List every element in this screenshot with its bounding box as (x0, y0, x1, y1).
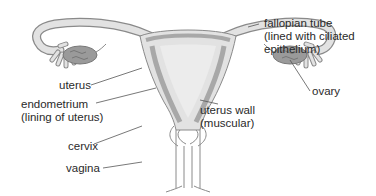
label-ovary: ovary (312, 85, 340, 98)
leader-uterus (91, 68, 142, 85)
leader-endometrium (96, 88, 156, 103)
left-ovary (63, 44, 106, 64)
label-cervix: cervix (68, 140, 98, 153)
vagina (166, 130, 210, 192)
label-fallopian-tube: fallopian tube (lined with ciliated epit… (264, 17, 355, 56)
label-vagina: vagina (66, 162, 100, 175)
leader-cervix (94, 126, 142, 144)
label-uterus: uterus (59, 79, 91, 92)
label-uterus-wall: uterus wall (muscular) (200, 104, 255, 130)
leader-vagina (103, 162, 142, 168)
label-endometrium: endometrium (lining of uterus) (21, 98, 103, 124)
